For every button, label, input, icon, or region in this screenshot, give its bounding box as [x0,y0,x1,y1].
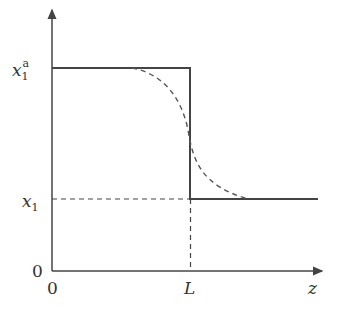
x-axis-label: z [307,278,318,298]
y-tick-upper-label: x1a [12,57,30,83]
origin-y-label: 0 [32,261,43,281]
x-tick-L-label: L [183,278,195,298]
step-profile [52,68,318,199]
y-tick-lower-label: x1 [22,191,39,214]
profile-diagram: x1a x1 0 0 L z [0,0,344,318]
origin-x-label: 0 [47,278,58,298]
